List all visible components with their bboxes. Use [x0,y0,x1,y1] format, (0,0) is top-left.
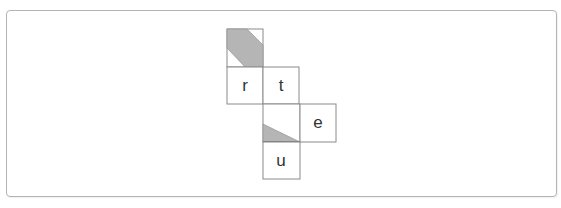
cell-label-r: r [227,67,263,104]
cell-label-t: t [263,67,299,104]
cell-top [227,29,263,67]
cell-label-u: u [263,142,299,179]
cell-middle [263,104,300,142]
cell-label-e: e [300,104,336,141]
